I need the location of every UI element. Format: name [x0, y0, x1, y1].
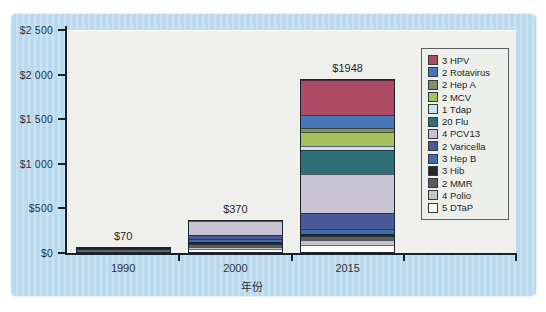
legend-item-label: 20 Flu [442, 116, 468, 127]
legend-swatch [428, 104, 438, 114]
legend-item: 4 Polio [428, 189, 508, 201]
chart-card: 年份 $0$500$1 000$1 500$2 000$2 5001990$70… [10, 13, 537, 297]
y-axis-tick-label: $0 [5, 247, 53, 259]
bar-segment [189, 221, 282, 235]
legend-item: 2 MCV [428, 91, 508, 103]
bar-segment [301, 150, 394, 175]
legend-swatch [428, 92, 438, 102]
bar-segment [301, 245, 394, 252]
legend-item: 3 HPV [428, 54, 508, 66]
bar-segment [301, 174, 394, 212]
bar-total-label: $70 [78, 230, 168, 242]
y-axis-line [65, 26, 67, 255]
bar-segment [301, 132, 394, 146]
y-axis-tick [58, 29, 65, 31]
bar-segment [189, 249, 282, 252]
stacked-bar-2015 [300, 79, 395, 253]
bar-total-label: $1948 [303, 62, 393, 74]
y-axis-tick-label: $2 500 [5, 24, 53, 36]
bar-total-label: $370 [190, 203, 280, 215]
legend-item: 2 Hep A [428, 79, 508, 91]
y-axis-tick [58, 118, 65, 120]
x-category-label: 2000 [195, 262, 275, 274]
x-axis-title: 年份 [215, 278, 289, 294]
stacked-bar-2000 [188, 220, 283, 253]
legend-swatch [428, 178, 438, 188]
x-axis-tick [178, 255, 180, 261]
bar-segment [301, 115, 394, 128]
legend-item: 2 Rotavirus [428, 66, 508, 78]
legend-item-label: 3 Hep B [442, 153, 476, 164]
legend-item: 3 Hib [428, 165, 508, 177]
top-gridline [67, 30, 516, 31]
legend-swatch [428, 67, 438, 77]
legend-item-label: 4 PCV13 [442, 128, 480, 139]
y-axis-tick [58, 163, 65, 165]
bar-segment [77, 251, 170, 252]
legend-item-label: 2 Varicella [442, 141, 486, 152]
legend-item: 2 MMR [428, 177, 508, 189]
stacked-bar-1990 [76, 247, 171, 253]
y-axis-tick [58, 207, 65, 209]
legend-swatch [428, 80, 438, 90]
y-axis-tick [58, 252, 65, 254]
legend-swatch [428, 141, 438, 151]
x-category-label: 1990 [83, 262, 163, 274]
legend-swatch [428, 190, 438, 200]
legend-item: 3 Hep B [428, 152, 508, 164]
chart-legend: 3 HPV2 Rotavirus2 Hep A2 MCV1 Tdap20 Flu… [421, 48, 509, 220]
legend-swatch [428, 55, 438, 65]
bar-segment [301, 80, 394, 114]
legend-item-label: 2 Rotavirus [442, 67, 490, 78]
legend-item-label: 3 HPV [442, 55, 469, 66]
legend-swatch [428, 117, 438, 127]
legend-item-label: 4 Polio [442, 190, 471, 201]
y-axis-tick-label: $1 000 [5, 158, 53, 170]
legend-item-label: 2 Hep A [442, 79, 476, 90]
legend-item-label: 5 DTaP [442, 202, 473, 213]
legend-swatch [428, 154, 438, 164]
legend-item: 20 Flu [428, 115, 508, 127]
legend-item: 1 Tdap [428, 103, 508, 115]
x-axis-tick [515, 255, 517, 261]
x-category-label: 2015 [308, 262, 388, 274]
x-axis-tick [403, 255, 405, 261]
y-axis-tick-label: $1 500 [5, 113, 53, 125]
legend-item-label: 3 Hib [442, 165, 464, 176]
legend-item-label: 1 Tdap [442, 104, 471, 115]
x-axis-tick [291, 255, 293, 261]
legend-swatch [428, 166, 438, 176]
y-axis-tick [58, 74, 65, 76]
bar-segment [301, 213, 394, 229]
legend-item: 4 PCV13 [428, 128, 508, 140]
legend-item-label: 2 MMR [442, 178, 473, 189]
y-axis-tick-label: $500 [5, 202, 53, 214]
legend-item-label: 2 MCV [442, 92, 471, 103]
legend-swatch [428, 203, 438, 213]
legend-item: 5 DTaP [428, 202, 508, 214]
legend-swatch [428, 129, 438, 139]
y-axis-tick-label: $2 000 [5, 69, 53, 81]
legend-item: 2 Varicella [428, 140, 508, 152]
